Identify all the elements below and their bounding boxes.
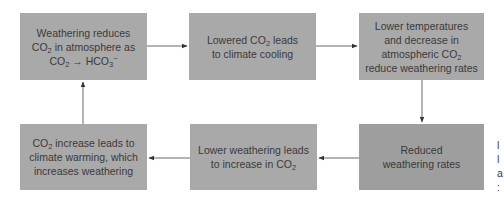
node-1-line-2: CO2 in atmosphere as (32, 40, 135, 54)
node-6-line-3: increases weathering (29, 164, 138, 178)
node-lower-temperatures: Lower temperatures and decrease in atmos… (359, 13, 484, 80)
node-5-line-2: to increase in CO2 (198, 157, 309, 171)
node-reduced-weathering-rates: Reduced weathering rates (359, 124, 484, 190)
node-6-line-2: climate warming, which (29, 150, 138, 164)
node-3-line-1: Lower temperatures (365, 19, 478, 33)
node-4-line-2: weathering rates (383, 157, 461, 171)
node-4-line-1: Reduced (383, 143, 461, 157)
cutoff-line-3: a (497, 166, 503, 180)
node-lowered-co2-cooling: Lowered CO2 leads to climate cooling (189, 13, 316, 80)
cutoff-line-2: l (497, 152, 503, 166)
cutoff-line-4: : (497, 180, 503, 194)
node-1-line-1: Weathering reduces (32, 26, 135, 40)
node-weathering-reduces-co2: Weathering reduces CO2 in atmosphere as … (20, 13, 147, 80)
node-3-line-2: and decrease in (365, 33, 478, 47)
node-lower-weathering-increase-co2: Lower weathering leads to increase in CO… (190, 124, 317, 190)
node-5-line-1: Lower weathering leads (198, 143, 309, 157)
node-3-line-4: reduce weathering rates (365, 61, 478, 75)
node-1-line-3: CO2 → HCO3− (32, 54, 135, 68)
cutoff-caption-text: l l a : (497, 138, 503, 194)
node-co2-increase-warming: CO2 increase leads to climate warming, w… (20, 124, 147, 190)
node-3-line-3: atmospheric CO2 (365, 47, 478, 61)
node-2-line-2: to climate cooling (207, 47, 298, 61)
cutoff-line-1: l (497, 138, 503, 152)
node-2-line-1: Lowered CO2 leads (207, 33, 298, 47)
node-6-line-1: CO2 increase leads to (29, 136, 138, 150)
